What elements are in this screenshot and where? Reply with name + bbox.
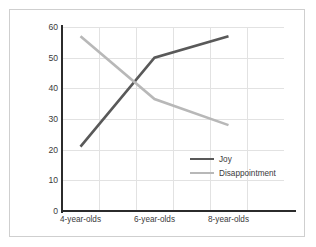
y-axis-tick-label: 30 [36,114,58,124]
x-axis-tick-label: 8-year-olds [184,215,274,224]
series-line-joy [81,36,229,146]
legend-label: Joy [219,155,232,164]
y-axis-tick-label: 10 [36,175,58,185]
chart-legend: JoyDisappointment [190,152,276,180]
legend-item-disappointment: Disappointment [190,166,276,180]
series-lines [62,27,284,211]
y-axis-tick-label: 60 [36,22,58,32]
series-line-disappointment [81,36,229,125]
chart-figure: Percent expressing the emotion when give… [0,0,316,247]
legend-item-joy: Joy [190,152,276,166]
plot-area [62,27,284,211]
legend-label: Disappointment [219,169,276,178]
y-axis-tick-label: 20 [36,145,58,155]
legend-swatch-disappointment [190,172,214,175]
y-axis-tick-label: 40 [36,83,58,93]
x-axis-spine [61,210,296,212]
legend-swatch-joy [190,158,214,161]
y-axis-tick-label: 50 [36,53,58,63]
y-axis-tick-labels: 6050403020100 [33,0,58,247]
y-axis-spine [61,25,63,213]
